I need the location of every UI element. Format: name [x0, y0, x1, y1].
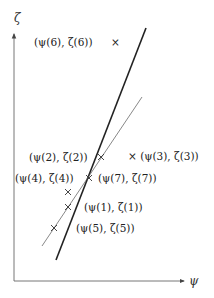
- x-axis-label: ψ: [189, 274, 199, 288]
- point-label-7: (ψ(7), ζ(7)): [98, 172, 157, 184]
- scatter-diagram: ζ ψ (ψ(6), ζ(6)) × (ψ(3), ζ(3)) (ψ(2), ζ…: [0, 0, 214, 298]
- y-axis-label: ζ: [14, 11, 22, 25]
- point-label-4: (ψ(4), ζ(4)): [15, 172, 74, 184]
- point-label-5: (ψ(5), ζ(5)): [76, 222, 135, 234]
- point-label-6: (ψ(6), ζ(6)): [34, 36, 93, 48]
- point-label-1: (ψ(1), ζ(1)): [84, 201, 143, 213]
- point-label-2: (ψ(2), ζ(2)): [29, 151, 88, 163]
- point-6-marker-glyph: ×: [111, 36, 120, 48]
- point-label-3: × (ψ(3), ζ(3)): [128, 150, 199, 162]
